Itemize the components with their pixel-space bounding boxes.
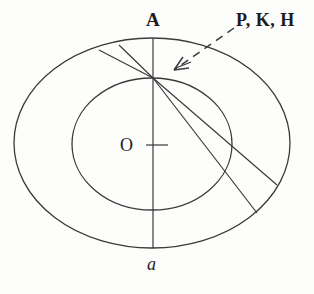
inner-ellipse (72, 78, 232, 210)
chord-upper-left-inner (119, 45, 153, 78)
label-bottom-a: a (147, 255, 156, 273)
label-center-O: O (120, 136, 133, 154)
label-apex-A: A (146, 10, 160, 29)
chord-upper-left-outer (99, 50, 153, 78)
label-annotation-pkh: P, K, H (236, 11, 295, 29)
chord-lower-right-upper (153, 78, 277, 185)
outer-ellipse (14, 38, 290, 248)
dashed-arrow-shaft (174, 28, 234, 70)
figure-canvas (0, 0, 314, 294)
geometry-figure: A P, K, H O a (0, 0, 314, 294)
